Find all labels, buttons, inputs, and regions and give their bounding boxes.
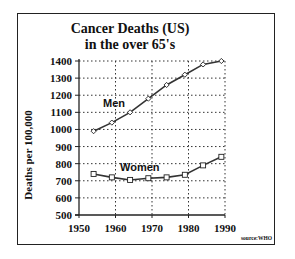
square-marker: [201, 163, 206, 168]
y-tick-label: 1400: [50, 55, 73, 67]
x-tick-label: 1990: [214, 222, 237, 234]
series-label-men: Men: [103, 97, 125, 109]
square-marker: [182, 172, 187, 177]
y-tick-label: 1000: [50, 123, 73, 135]
y-tick-label: 1200: [50, 89, 73, 101]
square-marker: [109, 175, 114, 180]
square-marker: [219, 154, 224, 159]
y-tick-label: 800: [56, 158, 73, 170]
x-tick-label: 1970: [141, 222, 164, 234]
square-marker: [91, 171, 96, 176]
y-tick-label: 600: [56, 192, 73, 204]
x-tick-label: 1980: [178, 222, 201, 234]
series-label-women: Women: [120, 161, 160, 173]
square-marker: [146, 176, 151, 181]
y-tick-label: 500: [56, 209, 73, 221]
x-tick-label: 1960: [105, 222, 128, 234]
y-tick-label: 1100: [51, 106, 73, 118]
x-tick-label: 1950: [68, 222, 91, 234]
plot-area: 5006007008009001000110012001300140019501…: [0, 0, 295, 259]
y-tick-label: 900: [56, 141, 73, 153]
y-tick-label: 1300: [50, 72, 73, 84]
source-note: source:WHO: [241, 235, 273, 241]
square-marker: [128, 177, 133, 182]
square-marker: [164, 175, 169, 180]
diamond-marker: [219, 58, 224, 63]
y-tick-label: 700: [56, 175, 73, 187]
